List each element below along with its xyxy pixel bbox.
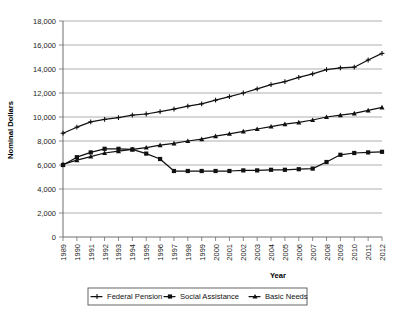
x-tick-label: 2008 — [323, 244, 332, 261]
square-marker-icon — [324, 160, 328, 164]
line-chart: 02,0004,0006,0008,00010,00012,00014,0001… — [0, 0, 394, 316]
plus-marker-icon — [227, 94, 232, 99]
legend-label-0: Federal Pension — [107, 292, 162, 301]
x-tick-labels: 1989199019911992199319941995199619971998… — [59, 244, 387, 261]
y-tick-label: 18,000 — [33, 17, 56, 26]
plus-marker-icon — [213, 98, 218, 103]
square-marker-icon — [338, 153, 342, 157]
plus-marker-icon — [366, 58, 371, 63]
plus-marker-icon — [324, 67, 329, 72]
x-tick-label: 2009 — [336, 244, 345, 261]
x-tick-label: 1996 — [156, 244, 165, 261]
plus-marker-icon — [144, 112, 149, 117]
plus-marker-icon — [88, 119, 93, 124]
y-tick-label: 8,000 — [37, 137, 56, 146]
y-tick-label: 2,000 — [37, 209, 56, 218]
x-tick-label: 2011 — [364, 244, 373, 260]
square-marker-icon — [380, 150, 384, 154]
square-marker-icon — [103, 147, 107, 151]
y-tick-label: 10,000 — [33, 113, 56, 122]
square-marker-icon — [89, 150, 93, 154]
x-tick-label: 2000 — [212, 244, 221, 261]
series-path — [63, 107, 382, 164]
x-tick-label: 2006 — [295, 244, 304, 261]
square-marker-icon — [311, 167, 315, 171]
plus-marker-icon — [241, 91, 246, 96]
square-marker-icon — [168, 294, 172, 298]
plus-marker-icon — [310, 71, 315, 76]
series-social-assistance — [61, 147, 384, 173]
square-marker-icon — [352, 151, 356, 155]
triangle-marker-icon — [380, 105, 385, 110]
x-tick-label: 1997 — [170, 244, 179, 261]
legend-label-1: Social Assistance — [180, 292, 239, 301]
plus-marker-icon — [199, 101, 204, 106]
y-tick-label: 0 — [52, 233, 56, 242]
chart-canvas: 02,0004,0006,0008,00010,00012,00014,0001… — [0, 0, 394, 316]
x-tick-label: 1998 — [184, 244, 193, 261]
y-tick-labels: 02,0004,0006,0008,00010,00012,00014,0001… — [33, 17, 56, 242]
plus-marker-icon — [74, 125, 79, 130]
x-tick-label: 2004 — [267, 244, 276, 261]
x-tick-label: 1993 — [114, 244, 123, 261]
square-marker-icon — [158, 157, 162, 161]
plus-marker-icon — [61, 131, 66, 136]
plus-marker-icon — [338, 65, 343, 70]
x-tick-label: 2012 — [378, 244, 387, 261]
square-marker-icon — [144, 152, 148, 156]
x-tick-label: 1991 — [87, 244, 96, 261]
x-tick-label: 2007 — [309, 244, 318, 261]
gridlines — [63, 21, 382, 213]
x-tick-label: 1990 — [73, 244, 82, 261]
square-marker-icon — [297, 167, 301, 171]
y-axis-title: Nominal Dollars — [6, 101, 15, 159]
square-marker-icon — [172, 169, 176, 173]
square-marker-icon — [241, 168, 245, 172]
square-marker-icon — [213, 169, 217, 173]
x-tick-label: 2010 — [350, 244, 359, 261]
plus-marker-icon — [269, 82, 274, 87]
y-axis — [59, 21, 63, 237]
plus-marker-icon — [283, 79, 288, 84]
square-marker-icon — [283, 168, 287, 172]
square-marker-icon — [366, 150, 370, 154]
x-tick-label: 1995 — [142, 244, 151, 261]
square-marker-icon — [227, 169, 231, 173]
y-tick-label: 6,000 — [37, 161, 56, 170]
plus-marker-icon — [380, 51, 385, 56]
plus-marker-icon — [185, 104, 190, 109]
plus-marker-icon — [116, 115, 121, 120]
square-marker-icon — [269, 168, 273, 172]
chart-legend: Federal PensionSocial AssistanceBasic Ne… — [88, 288, 308, 305]
legend-label-2: Basic Needs — [265, 292, 308, 301]
x-tick-label: 1989 — [59, 244, 68, 261]
plus-marker-icon — [102, 117, 107, 122]
x-axis — [63, 237, 382, 241]
square-marker-icon — [255, 168, 259, 172]
y-tick-label: 14,000 — [33, 65, 56, 74]
y-tick-label: 12,000 — [33, 89, 56, 98]
x-tick-label: 2005 — [281, 244, 290, 261]
x-tick-label: 2003 — [253, 244, 262, 261]
x-tick-label: 2001 — [225, 244, 234, 261]
plus-marker-icon — [255, 86, 260, 91]
plus-marker-icon — [158, 109, 163, 114]
x-tick-label: 2002 — [239, 244, 248, 261]
plus-marker-icon — [172, 107, 177, 112]
x-tick-label: 1999 — [198, 244, 207, 261]
plus-marker-icon — [296, 75, 301, 80]
square-marker-icon — [200, 169, 204, 173]
y-tick-label: 4,000 — [37, 185, 56, 194]
y-tick-label: 16,000 — [33, 41, 56, 50]
x-axis-title: Year — [270, 271, 286, 280]
x-tick-label: 1992 — [101, 244, 110, 261]
square-marker-icon — [186, 169, 190, 173]
x-tick-label: 1994 — [128, 244, 137, 261]
